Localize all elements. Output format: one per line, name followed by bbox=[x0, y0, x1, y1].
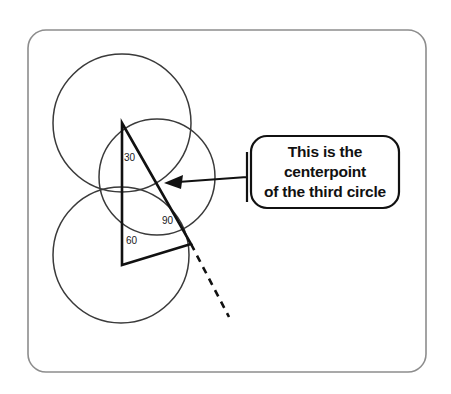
angle-label-60: 60 bbox=[126, 236, 137, 246]
angle-label-90: 90 bbox=[162, 216, 173, 226]
extension-dashed-line bbox=[191, 244, 229, 317]
callout-line-3: of the third circle bbox=[254, 182, 396, 202]
angle-label-30: 30 bbox=[124, 153, 135, 163]
diagram-canvas: 30 90 60 This is the centerpoint of the … bbox=[0, 0, 451, 394]
callout-arrow-icon bbox=[164, 175, 183, 189]
callout-text: This is the centerpoint of the third cir… bbox=[254, 142, 396, 201]
callout-line-2: centerpoint bbox=[254, 162, 396, 182]
circle-middle bbox=[99, 119, 215, 235]
callout-line-1: This is the bbox=[254, 142, 396, 162]
